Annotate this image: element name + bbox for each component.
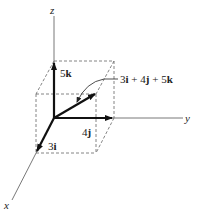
resultant-label: 3i + 4j + 5k	[120, 73, 174, 85]
vector-diagram: z y x 5k 4j 3i 3i + 4j + 5k	[0, 0, 197, 212]
resultant-vector	[54, 94, 95, 118]
y-axis-label: y	[184, 112, 190, 124]
label-leader-arrow	[77, 79, 118, 102]
k-component-label: 5k	[60, 67, 73, 79]
j-component-label: 4j	[82, 126, 91, 138]
z-axis-label: z	[49, 4, 55, 16]
i-component-label: 3i	[48, 140, 57, 152]
x-axis-label: x	[3, 199, 9, 211]
axes	[12, 16, 183, 200]
